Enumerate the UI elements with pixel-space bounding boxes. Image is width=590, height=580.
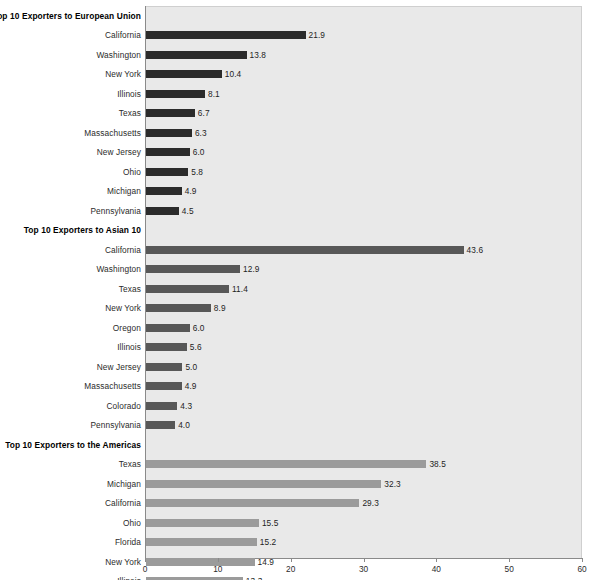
bar-group: 6.0 [146, 148, 205, 156]
category-label: California [105, 498, 141, 508]
bar-value-label: 21.9 [309, 30, 326, 40]
section-header-3: Top 10 Exporters to the Americas [0, 435, 590, 455]
bar-value-label: 4.3 [180, 401, 192, 411]
x-axis: 0102030405060 [145, 558, 583, 578]
x-tick [582, 558, 583, 562]
category-label: Florida [115, 537, 141, 547]
category-label: Pennsylvania [90, 420, 141, 430]
bar-group: 4.0 [146, 421, 190, 429]
bar-value-label: 6.0 [193, 147, 205, 157]
bar-row: Pennsylvania4.5 [0, 201, 590, 221]
bar-value-label: 38.5 [429, 459, 446, 469]
bar [146, 246, 464, 254]
x-tick-label: 50 [505, 564, 514, 574]
section-header-2: Top 10 Exporters to Asian 10 [0, 221, 590, 241]
category-label: Oregon [113, 323, 141, 333]
bar-value-label: 11.4 [232, 284, 248, 294]
category-label: Colorado [107, 401, 141, 411]
bar-row: Colorado4.3 [0, 396, 590, 416]
bar [146, 51, 247, 59]
bar-value-label: 15.2 [260, 537, 277, 547]
category-label: New Jersey [97, 147, 141, 157]
section-title: Top 10 Exporters to the Americas [5, 440, 141, 450]
bar-group: 13.8 [146, 51, 266, 59]
bar-value-label: 8.1 [208, 89, 220, 99]
bar-group: 10.4 [146, 70, 241, 78]
bar [146, 129, 192, 137]
bar-row: Massachusetts4.9 [0, 377, 590, 397]
bar-group: 6.3 [146, 129, 207, 137]
x-tick [218, 558, 219, 562]
bar-row: California29.3 [0, 494, 590, 514]
bar-group: 32.3 [146, 480, 401, 488]
bar [146, 148, 190, 156]
category-label: Illinois [117, 576, 141, 580]
bar [146, 187, 182, 195]
bar-group: 4.9 [146, 382, 197, 390]
bar-value-label: 5.6 [190, 342, 202, 352]
bar-group: 8.9 [146, 304, 226, 312]
x-tick [291, 558, 292, 562]
x-tick-label: 30 [359, 564, 368, 574]
bar-value-label: 32.3 [384, 479, 401, 489]
bar-row: Illinois5.6 [0, 338, 590, 358]
bar-value-label: 5.0 [185, 362, 197, 372]
category-label: California [105, 30, 141, 40]
bar [146, 90, 205, 98]
bar-value-label: 4.5 [182, 206, 194, 216]
category-label: Ohio [123, 518, 141, 528]
bar-row: Michigan32.3 [0, 474, 590, 494]
category-label: New York [105, 557, 141, 567]
x-tick [364, 558, 365, 562]
category-label: Washington [96, 50, 141, 60]
category-label: Texas [119, 108, 141, 118]
bar-group: 5.0 [146, 363, 197, 371]
bar-value-label: 12.9 [243, 264, 260, 274]
bar [146, 324, 190, 332]
category-label: Massachusetts [84, 128, 141, 138]
bar-value-label: 6.0 [193, 323, 205, 333]
bar-value-label: 5.8 [191, 167, 203, 177]
bar [146, 70, 222, 78]
bar [146, 402, 177, 410]
bar [146, 207, 179, 215]
section-title: Top 10 Exporters to European Union [0, 11, 141, 21]
bar-value-label: 6.7 [198, 108, 210, 118]
bar-value-label: 4.0 [178, 420, 190, 430]
x-tick [436, 558, 437, 562]
bar-group: 12.9 [146, 265, 260, 273]
bar-group: 21.9 [146, 31, 325, 39]
bar [146, 460, 426, 468]
bar [146, 343, 187, 351]
bar-group: 15.5 [146, 519, 278, 527]
bar-group: 29.3 [146, 499, 379, 507]
category-label: Washington [96, 264, 141, 274]
bar-group: 6.0 [146, 324, 205, 332]
category-label: Michigan [107, 479, 141, 489]
bar [146, 265, 240, 273]
bar-row: Florida15.2 [0, 533, 590, 553]
x-tick [509, 558, 510, 562]
bar-value-label: 4.9 [185, 381, 197, 391]
bar [146, 109, 195, 117]
bar [146, 31, 306, 39]
x-tick-label: 10 [213, 564, 222, 574]
x-tick-label: 0 [143, 564, 148, 574]
bar-value-label: 4.9 [185, 186, 197, 196]
bar-group: 6.7 [146, 109, 210, 117]
bar-group: 4.3 [146, 402, 192, 410]
x-tick-label: 20 [286, 564, 295, 574]
bar-value-label: 8.9 [214, 303, 226, 313]
bar-row: Ohio5.8 [0, 162, 590, 182]
bar-row: New Jersey5.0 [0, 357, 590, 377]
bar [146, 519, 259, 527]
bar-row: Ohio15.5 [0, 513, 590, 533]
chart-rows: Top 10 Exporters to European UnionCalifo… [0, 0, 590, 560]
bar-group: 38.5 [146, 460, 446, 468]
bar [146, 363, 182, 371]
bar-row: Michigan4.9 [0, 182, 590, 202]
bar-group: 43.6 [146, 246, 483, 254]
x-tick-label: 60 [577, 564, 586, 574]
bar-row: New York10.4 [0, 65, 590, 85]
bar-value-label: 15.5 [262, 518, 279, 528]
